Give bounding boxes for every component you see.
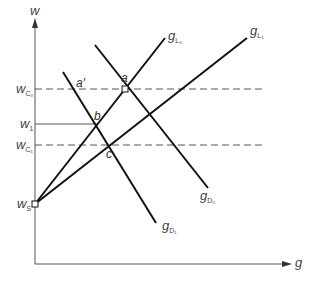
label-wC1: wC₁ [16, 138, 33, 153]
label-gD1: gD₁ [162, 219, 177, 234]
point-wS-marker [32, 201, 38, 207]
label-gD0: gD₀ [200, 189, 215, 204]
diagram-canvas [0, 0, 314, 282]
label-point-a-prime: a′ [76, 77, 85, 89]
label-gL1: gL₁ [250, 24, 264, 39]
label-point-a: a [121, 72, 128, 84]
label-w1: w1 [20, 117, 33, 132]
point-a-marker [122, 86, 128, 92]
label-point-b: b [94, 110, 101, 122]
curve-gL1 [35, 38, 247, 204]
label-wC0: wC₀ [16, 82, 33, 97]
x-axis-arrow-icon [282, 261, 292, 267]
y-axis-label: w [30, 4, 39, 17]
x-axis-label: g [295, 256, 302, 269]
label-point-c: c [106, 148, 112, 160]
label-gL0: gL₀ [168, 29, 182, 44]
curve-gD0 [95, 45, 208, 188]
y-axis-arrow-icon [32, 18, 38, 28]
label-wS: wS [17, 197, 31, 212]
